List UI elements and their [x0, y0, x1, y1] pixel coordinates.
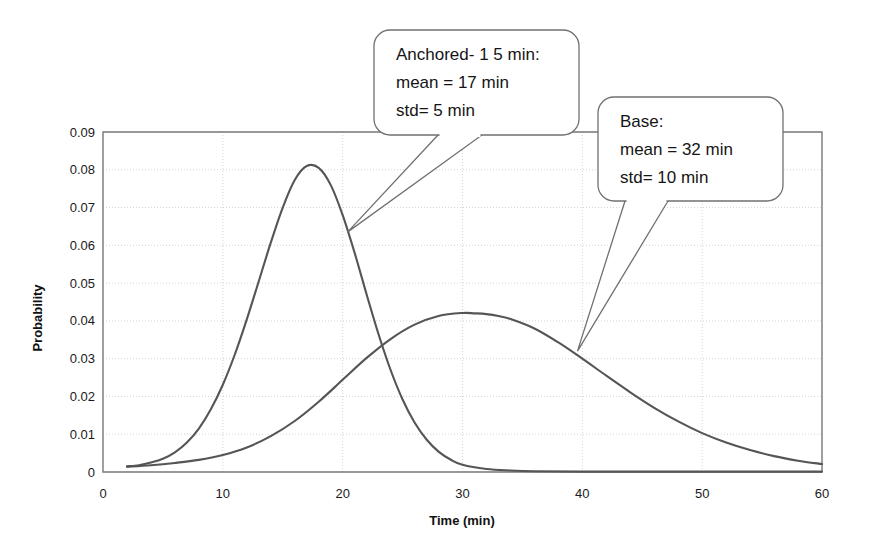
- x-tick-label: 60: [815, 486, 829, 501]
- y-tick-label: 0: [88, 465, 95, 480]
- callout-line: mean = 17 min: [396, 73, 509, 92]
- y-tick-label: 0.07: [70, 200, 95, 215]
- y-tick-label: 0.08: [70, 162, 95, 177]
- x-tick-label: 0: [99, 486, 106, 501]
- callout-line: std= 5 min: [396, 101, 475, 120]
- y-tick-label: 0.01: [70, 427, 95, 442]
- y-axis-tick-labels: 00.010.020.030.040.050.060.070.080.09: [70, 125, 95, 480]
- callout-line: Anchored- 1 5 min:: [396, 45, 540, 64]
- x-tick-label: 20: [335, 486, 349, 501]
- x-tick-label: 30: [455, 486, 469, 501]
- callout-line: Base:: [620, 112, 663, 131]
- callout-line: mean = 32 min: [620, 140, 733, 159]
- callout-seam-anchored: [440, 132, 481, 137]
- y-tick-label: 0.05: [70, 276, 95, 291]
- y-axis-title: Probability: [30, 284, 45, 352]
- chart-page: 00.010.020.030.040.050.060.070.080.09 01…: [0, 0, 880, 559]
- y-tick-label: 0.06: [70, 238, 95, 253]
- x-axis-tick-labels: 0102030405060: [99, 486, 829, 501]
- x-tick-label: 50: [695, 486, 709, 501]
- y-tick-label: 0.04: [70, 313, 95, 328]
- x-axis-title: Time (min): [429, 513, 495, 528]
- callout-seam-base: [627, 198, 667, 203]
- probability-distribution-chart: 00.010.020.030.040.050.060.070.080.09 01…: [0, 0, 880, 559]
- y-tick-label: 0.02: [70, 389, 95, 404]
- y-tick-label: 0.09: [70, 125, 95, 140]
- x-tick-label: 40: [575, 486, 589, 501]
- x-tick-label: 10: [216, 486, 230, 501]
- y-tick-label: 0.03: [70, 351, 95, 366]
- callout-line: std= 10 min: [620, 168, 708, 187]
